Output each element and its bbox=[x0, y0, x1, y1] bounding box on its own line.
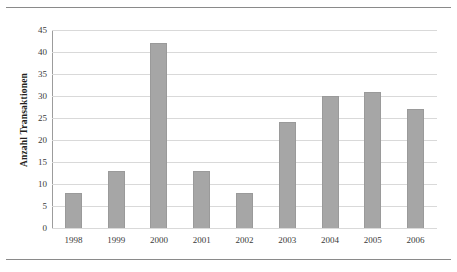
gridline: 35 bbox=[52, 74, 437, 75]
figure-bottom-rule bbox=[6, 259, 451, 260]
x-axis-tick-label: 2004 bbox=[321, 235, 339, 245]
y-axis-tick-label: 35 bbox=[38, 70, 47, 79]
y-axis-tick-label: 15 bbox=[38, 158, 47, 167]
figure: Anzahl Transaktionen 051015202530354045 … bbox=[0, 0, 457, 272]
y-axis-tick-label: 20 bbox=[38, 136, 47, 145]
x-axis-tick-label: 2003 bbox=[278, 235, 296, 245]
bar-chart: Anzahl Transaktionen 051015202530354045 … bbox=[0, 7, 457, 259]
plot-area: 051015202530354045 bbox=[52, 30, 437, 228]
y-axis-tick-label: 45 bbox=[38, 26, 47, 35]
y-axis-tick-label: 0 bbox=[43, 224, 48, 233]
y-axis-tick-label: 5 bbox=[43, 202, 48, 211]
x-axis-tick-label: 2006 bbox=[407, 235, 425, 245]
bar bbox=[407, 109, 424, 228]
gridline: 40 bbox=[52, 52, 437, 53]
x-axis-tick-label: 2000 bbox=[150, 235, 168, 245]
y-axis-tick-label: 30 bbox=[38, 92, 47, 101]
bar bbox=[193, 171, 210, 228]
bar bbox=[322, 96, 339, 228]
x-axis-tick-label: 1999 bbox=[107, 235, 125, 245]
x-axis-tick-label: 2005 bbox=[364, 235, 382, 245]
bar bbox=[108, 171, 125, 228]
x-axis-tick-label: 2002 bbox=[236, 235, 254, 245]
y-axis-title: Anzahl Transaktionen bbox=[19, 50, 29, 190]
bar bbox=[65, 193, 82, 228]
x-axis-tick-label: 1998 bbox=[64, 235, 82, 245]
bar bbox=[150, 43, 167, 228]
y-axis-tick-label: 25 bbox=[38, 114, 47, 123]
bar bbox=[364, 92, 381, 228]
bar bbox=[236, 193, 253, 228]
y-axis-tick-label: 10 bbox=[38, 180, 47, 189]
bar bbox=[279, 122, 296, 228]
gridline: 0 bbox=[52, 228, 437, 229]
y-axis-tick-label: 40 bbox=[38, 48, 47, 57]
x-axis-tick-label: 2001 bbox=[193, 235, 211, 245]
gridline: 45 bbox=[52, 30, 437, 31]
